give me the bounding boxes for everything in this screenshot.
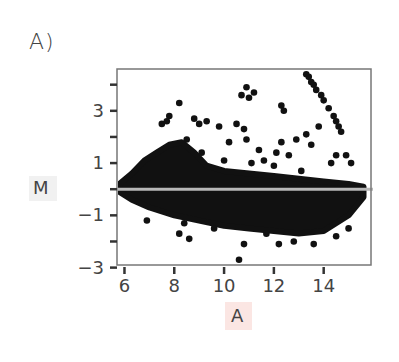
data-point	[186, 236, 193, 243]
data-point	[345, 225, 352, 232]
data-point	[333, 152, 340, 159]
data-point	[243, 84, 250, 91]
data-point	[291, 238, 298, 245]
data-point	[183, 136, 190, 143]
data-point	[338, 128, 345, 135]
data-point	[333, 233, 340, 240]
data-point	[164, 118, 171, 125]
y-tick-label: −3	[77, 257, 104, 278]
data-point	[238, 92, 245, 99]
data-point	[216, 123, 223, 130]
data-point	[246, 94, 253, 101]
data-point	[176, 230, 183, 237]
data-point	[343, 152, 350, 159]
data-point	[310, 241, 317, 248]
data-point	[328, 160, 335, 167]
x-tick-label: 10	[213, 275, 236, 296]
data-point	[308, 141, 315, 148]
data-point	[196, 121, 203, 128]
x-tick-label: 12	[262, 275, 285, 296]
data-point	[243, 136, 250, 143]
y-tick-label: 3	[93, 100, 104, 121]
x-tick-label: 8	[169, 275, 180, 296]
data-point	[293, 136, 300, 143]
data-point	[176, 100, 183, 107]
data-point	[325, 105, 332, 112]
data-point	[144, 217, 151, 224]
data-point	[286, 152, 293, 159]
data-point	[303, 131, 310, 138]
data-point	[198, 149, 205, 156]
data-point	[203, 118, 210, 125]
data-point	[320, 97, 327, 104]
data-point	[233, 121, 240, 128]
data-point	[263, 230, 270, 237]
data-point	[236, 256, 243, 263]
data-point	[348, 160, 355, 167]
data-point	[298, 168, 305, 175]
data-point	[241, 126, 248, 133]
data-point	[191, 115, 198, 122]
data-point	[281, 108, 288, 115]
ma-scatter-plot: −3−113 68101214	[0, 0, 399, 362]
data-point	[248, 160, 255, 167]
x-tick-label: 14	[312, 275, 335, 296]
data-point	[273, 149, 280, 156]
y-tick-label: −1	[77, 204, 104, 225]
y-tick-label: 1	[93, 152, 104, 173]
data-point	[278, 139, 285, 146]
data-point	[276, 241, 283, 248]
y-axis: −3−113	[77, 85, 117, 278]
data-point	[271, 162, 278, 169]
data-point	[221, 157, 228, 164]
data-point	[211, 225, 218, 232]
x-tick-label: 6	[119, 275, 130, 296]
data-point	[251, 89, 258, 96]
data-point	[226, 139, 233, 146]
data-point	[261, 157, 268, 164]
x-axis: 68101214	[119, 267, 335, 296]
data-point	[241, 241, 248, 248]
data-point	[313, 87, 320, 94]
data-point	[181, 220, 188, 227]
data-point	[315, 123, 322, 130]
data-point	[256, 147, 263, 154]
